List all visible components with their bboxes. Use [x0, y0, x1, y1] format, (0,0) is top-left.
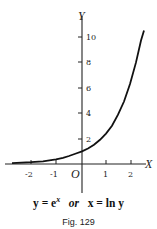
figure-number: Fig. 129	[0, 217, 157, 227]
figure-root: 2 4 6 8 10 -2 -1 1 2 Y X O y = ex or x =…	[0, 0, 157, 229]
y-axis-label: Y	[78, 9, 86, 23]
y-tick-10: 10	[86, 33, 96, 42]
origin-label: O	[71, 167, 80, 181]
x-axis-label: X	[144, 157, 153, 171]
figure-caption: y = ex or x = ln y	[0, 195, 157, 209]
y-tick-2: 2	[86, 135, 91, 144]
exponential-curve	[12, 31, 144, 164]
y-tick-8: 8	[86, 58, 91, 67]
x-tick-neg1: -1	[50, 170, 58, 179]
y-ticks	[78, 37, 82, 139]
y-tick-4: 4	[86, 109, 91, 118]
x-tick-neg2: -2	[25, 170, 33, 179]
x-tick-2: 2	[128, 170, 133, 179]
x-tick-1: 1	[103, 170, 108, 179]
y-tick-6: 6	[86, 84, 91, 93]
